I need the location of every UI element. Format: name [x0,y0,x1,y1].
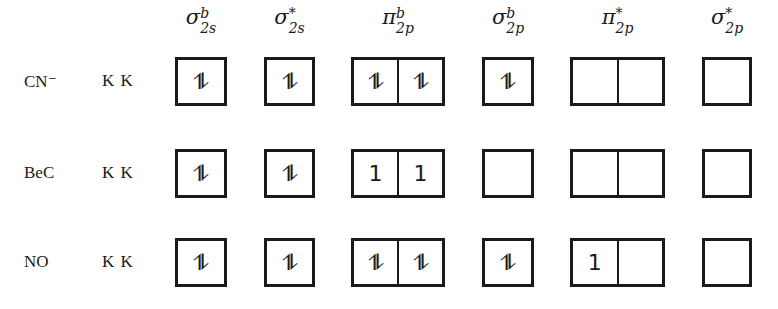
orbital-cell: ⥮ [397,60,442,103]
molecule-label: CN⁻ [24,71,57,92]
orbital-header-pi_2p_star: π*2p [588,4,648,33]
molecule-label: NO [24,252,49,272]
orbital-scripts: b2s [200,6,216,35]
orbital-box-sigma_2p_b: ⥮ [482,238,534,287]
orbital-cell [573,152,617,195]
orbital-symbol: π [382,5,396,29]
orbital-box-sigma_2s_b: ⥮ [175,57,227,106]
orbital-symbol: σ [274,5,288,29]
orbital-subscript: 2p [506,21,524,35]
core-shell-label: K K [102,163,134,183]
orbital-box-sigma_2p_star [702,238,752,287]
orbital-scripts: b2p [396,6,414,35]
orbital-cell: ⥮ [397,241,442,284]
orbital-scripts: *2p [725,6,743,35]
orbital-box-pi_2p_star: 1 [570,238,665,287]
orbital-cell: ⥮ [178,241,224,284]
orbital-scripts: b2p [506,6,524,35]
orbital-symbol: σ [492,5,506,29]
orbital-cell: ⥮ [178,60,224,103]
orbital-cell [485,152,531,195]
orbital-box-pi_2p_b: 11 [351,149,445,198]
core-shell-label: K K [102,71,134,91]
orbital-scripts: *2s [289,6,305,35]
orbital-cell [705,241,749,284]
orbital-superscript: * [725,6,743,20]
core-shell-label: K K [102,252,134,272]
orbital-header-sigma_2p_b: σb2p [478,4,538,33]
orbital-cell: ⥮ [267,60,312,103]
orbital-cell: ⥮ [485,241,531,284]
orbital-cell [617,152,663,195]
orbital-symbol: π [602,5,616,29]
orbital-header-sigma_2s_b: σb2s [171,4,231,33]
orbital-cell [705,60,749,103]
orbital-cell [705,152,749,195]
orbital-symbol: σ [711,5,725,29]
orbital-subscript: 2p [615,21,633,35]
orbital-box-sigma_2s_star: ⥮ [264,57,315,106]
orbital-superscript: * [615,6,633,20]
orbital-cell: 1 [354,152,397,195]
orbital-cell [617,241,663,284]
orbital-box-pi_2p_b: ⥮⥮ [351,238,445,287]
orbital-cell: ⥮ [354,60,397,103]
orbital-cell: 1 [397,152,442,195]
orbital-subscript: 2s [289,21,305,35]
orbital-superscript: * [289,6,305,20]
orbital-box-sigma_2p_star [702,149,752,198]
orbital-cell: ⥮ [485,60,531,103]
orbital-cell: ⥮ [354,241,397,284]
orbital-box-pi_2p_star [570,149,665,198]
orbital-box-sigma_2s_b: ⥮ [175,238,227,287]
orbital-superscript: b [396,6,414,20]
orbital-box-sigma_2s_b: ⥮ [175,149,227,198]
orbital-box-sigma_2p_star [702,57,752,106]
molecule-label: BeC [24,163,54,183]
orbital-subscript: 2p [725,21,743,35]
orbital-subscript: 2s [200,21,216,35]
orbital-scripts: *2p [615,6,633,35]
orbital-cell [617,60,663,103]
orbital-box-sigma_2s_star: ⥮ [264,238,315,287]
orbital-box-sigma_2p_b: ⥮ [482,57,534,106]
orbital-cell [573,60,617,103]
orbital-box-sigma_2p_b [482,149,534,198]
orbital-subscript: 2p [396,21,414,35]
orbital-box-sigma_2s_star: ⥮ [264,149,315,198]
orbital-cell: 1 [573,241,617,284]
orbital-header-pi_2p_b: πb2p [368,4,428,33]
orbital-cell: ⥮ [267,241,312,284]
orbital-box-pi_2p_b: ⥮⥮ [351,57,445,106]
orbital-box-pi_2p_star [570,57,665,106]
orbital-header-sigma_2s_star: σ*2s [260,4,320,33]
orbital-superscript: b [200,6,216,20]
orbital-superscript: b [506,6,524,20]
orbital-symbol: σ [186,5,200,29]
orbital-header-sigma_2p_star: σ*2p [697,4,757,33]
orbital-cell: ⥮ [267,152,312,195]
orbital-cell: ⥮ [178,152,224,195]
